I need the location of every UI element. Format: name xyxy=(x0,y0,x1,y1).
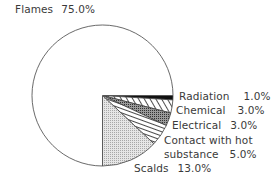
slice-percent: 5.0% xyxy=(230,148,257,160)
slice-name: Radiation xyxy=(179,90,230,102)
label-radiation: Radiation1.0% xyxy=(179,90,271,102)
slice-name: Electrical xyxy=(172,119,221,131)
label-chemical: Chemical3.0% xyxy=(176,104,265,116)
slice-percent: 3.0% xyxy=(238,104,265,116)
label-scalds: Scalds13.0% xyxy=(134,162,211,174)
slice-percent: 75.0% xyxy=(61,3,95,15)
label-contact-line2: substance5.0% xyxy=(164,148,257,160)
label-contact-line1: Contact with hot xyxy=(164,134,253,146)
slice-name: Flames xyxy=(15,3,53,15)
slice-name: Contact with hot xyxy=(164,134,253,146)
slice-name: Chemical xyxy=(176,104,226,116)
slice-percent: 13.0% xyxy=(178,162,212,174)
slice-name: Scalds xyxy=(134,162,169,174)
label-flames: Flames75.0% xyxy=(15,3,95,15)
slice-percent: 3.0% xyxy=(230,119,257,131)
slice-name: substance xyxy=(164,148,219,160)
pie-slices xyxy=(32,25,173,166)
label-electrical: Electrical3.0% xyxy=(172,119,257,131)
slice-percent: 1.0% xyxy=(244,90,271,102)
